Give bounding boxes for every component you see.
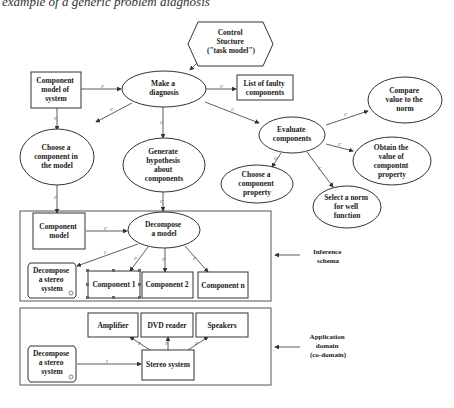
svg-text:Component 2: Component 2 — [145, 280, 188, 289]
svg-text:Obtain the value of: Obtain the value of compontnt property — [374, 143, 410, 179]
inference-schema-label: Inference schema — [313, 248, 343, 265]
node-decompose-stereo-inference[interactable]: Decompose a stereo system — [28, 263, 76, 298]
svg-text:Choose a component: Choose a component property — [238, 170, 275, 197]
node-select-norm[interactable]: Select a norm for well function — [313, 186, 381, 228]
svg-text:C: C — [344, 112, 348, 117]
edge-diagnosis-to-evaluate — [205, 102, 259, 123]
svg-text:P: P — [103, 226, 107, 231]
svg-text:List of faulty component: List of faulty components — [243, 79, 286, 97]
svg-text:P: P — [53, 195, 57, 200]
svg-text:Evaluate components: Evaluate components — [273, 125, 311, 143]
node-evaluate-components[interactable]: Evaluate components — [259, 117, 325, 153]
svg-text:I: I — [103, 250, 106, 255]
svg-text:P: P — [192, 256, 196, 261]
svg-text:Component 1: Component 1 — [92, 280, 135, 289]
svg-text:Speakers: Speakers — [207, 321, 236, 330]
application-domain-label: Application domain (co-domain) — [310, 333, 347, 359]
svg-text:P: P — [164, 341, 168, 346]
svg-text:C: C — [231, 107, 235, 112]
diagnosis-diagram: Inference schema Application domain (co-… — [0, 0, 454, 408]
svg-text:C: C — [338, 142, 342, 147]
node-choose-component-in-model[interactable]: Choose a component in the model — [20, 129, 94, 185]
svg-text:I: I — [105, 359, 108, 364]
edge-diagnosis-to-choose — [96, 103, 132, 122]
svg-text:P: P — [161, 257, 165, 262]
node-choose-component-property[interactable]: Choose a component property — [221, 165, 293, 203]
node-component-model-of-system[interactable]: Component model of system — [31, 72, 81, 108]
edge-decompose-to-comp1 — [130, 247, 148, 271]
svg-text:P: P — [219, 84, 223, 89]
svg-text:P: P — [137, 341, 141, 346]
svg-text:P: P — [133, 256, 137, 261]
svg-text:Amplifier: Amplifier — [97, 321, 129, 330]
node-generate-hypothesis[interactable]: Generate hypothesis about components — [123, 138, 205, 192]
node-make-diagnosis[interactable]: Make a diagnosis — [122, 71, 206, 107]
edge-decompose-to-stereo-inference — [77, 244, 138, 266]
node-decompose-model[interactable]: Decompose a model — [128, 212, 200, 248]
svg-text:DVD reader: DVD reader — [147, 321, 187, 330]
node-amplifier[interactable]: Amplifier — [88, 313, 138, 337]
svg-text:Make a diagnosis: Make a diagnosis — [149, 79, 179, 97]
node-control-structure[interactable]: Control Stucture ("task model") — [188, 22, 273, 66]
node-component-n[interactable]: Component n — [198, 272, 248, 298]
node-compare-value[interactable]: Compare value to the norm — [368, 77, 442, 123]
node-stereo-system[interactable]: Stereo system — [142, 350, 194, 380]
svg-text:P: P — [100, 84, 104, 89]
svg-text:P: P — [53, 116, 57, 121]
node-list-faulty-components[interactable]: List of faulty components — [237, 75, 293, 100]
svg-text:C: C — [318, 166, 322, 171]
svg-text:Component n: Component n — [201, 281, 245, 290]
edge-decompose-to-compn — [185, 246, 208, 272]
node-decompose-stereo-application[interactable]: Decompose a stereo system — [28, 346, 76, 382]
svg-text:C: C — [110, 107, 114, 112]
svg-text:P: P — [194, 341, 198, 346]
node-component-1[interactable]: Component 1 — [86, 269, 141, 299]
node-obtain-value[interactable]: Obtain the value of compontnt property — [353, 137, 431, 185]
node-dvd-reader[interactable]: DVD reader — [141, 313, 193, 337]
svg-text:Stereo system: Stereo system — [146, 360, 191, 369]
node-speakers[interactable]: Speakers — [196, 313, 248, 337]
node-component-2[interactable]: Component 2 — [142, 272, 193, 298]
node-component-model[interactable]: Component model — [33, 213, 85, 249]
